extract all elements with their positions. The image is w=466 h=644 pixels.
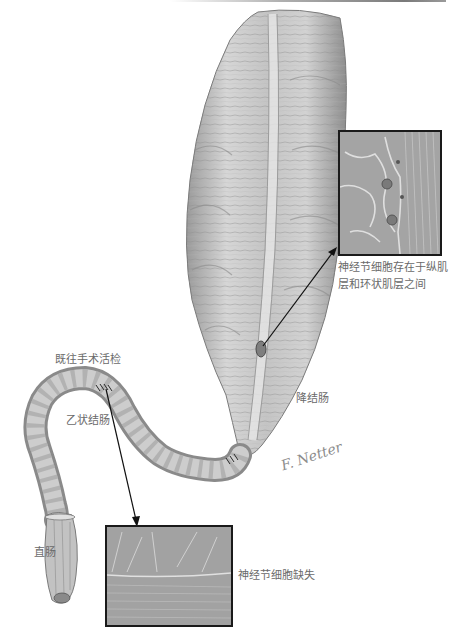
colon-illustration — [0, 0, 466, 644]
label-descending-colon: 降结肠 — [296, 390, 329, 407]
label-ganglion-absent: 神经节细胞缺失 — [238, 567, 315, 584]
histology-inset-ganglia-present — [338, 130, 442, 256]
label-line-1: 神经节细胞存在于纵肌 — [338, 259, 448, 276]
label-rectum: 直肠 — [34, 544, 56, 561]
histology-inset-ganglia-absent — [105, 525, 233, 627]
label-ganglion-present: 神经节细胞存在于纵肌 层和环状肌层之间 — [338, 259, 448, 293]
label-line-2: 层和环状肌层之间 — [338, 276, 448, 293]
label-prior-biopsy: 既往手术活检 — [55, 351, 121, 368]
label-sigmoid-colon: 乙状结肠 — [66, 412, 110, 429]
